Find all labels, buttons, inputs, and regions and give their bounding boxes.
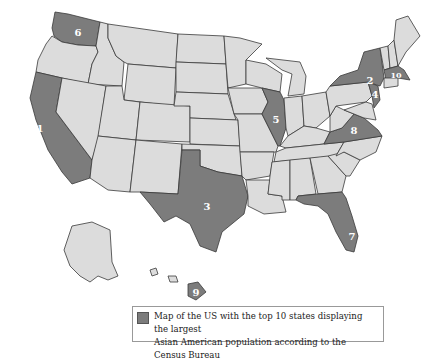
rank-label-6: 6 bbox=[75, 27, 82, 38]
legend-box: Map of the US with the top 10 states dis… bbox=[132, 306, 384, 342]
legend-line-2: Asian American population according to t… bbox=[154, 336, 379, 362]
state-wyoming[interactable] bbox=[124, 64, 176, 106]
state-alaska[interactable] bbox=[64, 222, 118, 282]
rank-label-4: 4 bbox=[372, 89, 379, 100]
state-ohio[interactable] bbox=[302, 92, 330, 128]
state-hawaii-small[interactable] bbox=[150, 268, 158, 276]
rank-label-9: 9 bbox=[193, 287, 200, 298]
legend-line-1: Map of the US with the top 10 states dis… bbox=[154, 310, 379, 336]
rank-label-3: 3 bbox=[204, 201, 211, 212]
state-florida[interactable] bbox=[296, 192, 358, 252]
rank-label-10: 10 bbox=[390, 70, 402, 80]
state-iowa[interactable] bbox=[228, 88, 268, 114]
state-south-dakota[interactable] bbox=[176, 62, 228, 94]
legend-text: Map of the US with the top 10 states dis… bbox=[154, 310, 379, 362]
rank-label-7: 7 bbox=[349, 231, 356, 242]
state-mississippi[interactable] bbox=[268, 160, 290, 200]
state-kansas[interactable] bbox=[190, 118, 240, 146]
rank-label-5: 5 bbox=[273, 114, 280, 125]
state-arkansas[interactable] bbox=[240, 152, 274, 180]
rank-label-1: 1 bbox=[37, 123, 44, 134]
state-new-york[interactable] bbox=[330, 48, 384, 86]
state-arizona[interactable] bbox=[90, 136, 136, 192]
state-north-dakota[interactable] bbox=[176, 34, 226, 64]
state-maine[interactable] bbox=[394, 16, 420, 66]
state-colorado[interactable] bbox=[136, 102, 190, 142]
legend-swatch bbox=[137, 312, 149, 324]
state-hawaii-small-2[interactable] bbox=[168, 276, 178, 282]
rank-label-2: 2 bbox=[367, 75, 374, 86]
rank-label-8: 8 bbox=[351, 125, 358, 136]
state-new-mexico[interactable] bbox=[130, 140, 182, 194]
